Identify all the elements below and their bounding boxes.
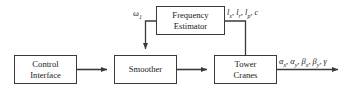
block-control-interface [15,56,77,84]
block-frequency-estimator [157,7,225,35]
connector-cranes-to-estimator [225,21,246,55]
length-sym-4: c [255,8,259,17]
signal-label-outputs: αx, αy, βx, βy, γ [279,57,327,68]
block-diagram: Control Interface Smoother Tower Cranes … [0,0,353,92]
block-smoother [115,56,177,84]
output-sym-5: γ [324,57,327,66]
signal-label-omega1: ω1 [133,9,142,20]
block-tower-cranes [215,56,277,84]
omega-subscript: 1 [139,14,142,20]
signal-label-lengths: lx, lr, lp, c [227,8,258,19]
connector-estimator-omega-to-smoother [146,21,157,49]
diagram-canvas [0,0,353,92]
